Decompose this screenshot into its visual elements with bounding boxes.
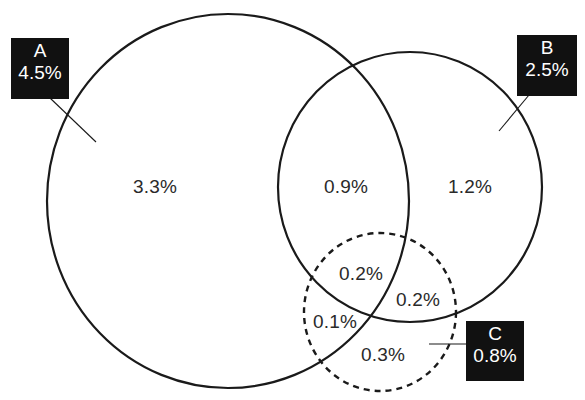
set-b-name: B [520,37,574,59]
region-a-c: 0.1% [313,311,357,333]
set-b-total: 2.5% [520,59,574,81]
leader-line-b [499,95,529,131]
set-c-total: 0.8% [469,345,521,367]
region-c-only: 0.3% [361,344,405,366]
region-a-only: 3.3% [133,176,177,198]
set-label-c: C 0.8% [466,321,524,381]
circle-b [278,52,542,322]
set-c-name: C [469,323,521,345]
region-a-b-c: 0.2% [339,263,383,285]
set-a-total: 4.5% [14,62,66,84]
set-label-a: A 4.5% [11,38,69,99]
set-label-b: B 2.5% [517,35,577,96]
region-b-c: 0.2% [396,289,440,311]
region-a-b: 0.9% [324,176,368,198]
set-a-name: A [14,40,66,62]
region-b-only: 1.2% [448,176,492,198]
